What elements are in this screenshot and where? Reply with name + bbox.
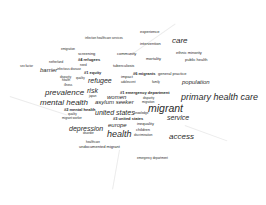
cloud-word: japan (89, 95, 96, 98)
cloud-word: public health (185, 58, 207, 62)
cloud-word: refugee (88, 77, 112, 84)
cloud-word: mental health (40, 99, 88, 107)
cloud-word: sex factor (20, 65, 33, 68)
cloud-word: care (172, 37, 188, 45)
cloud-word: europe (108, 122, 127, 128)
cloud-word: primary health care (181, 93, 258, 102)
cloud-word: risk (87, 87, 98, 94)
cloud-word: healthcare services (97, 37, 123, 40)
cloud-word: quality (76, 77, 85, 80)
faint-edge-line (112, 150, 120, 190)
cloud-word: service (167, 114, 189, 121)
cloud-word: children (136, 128, 150, 132)
cloud-word: emigration (61, 48, 75, 51)
cloud-word: general practice (158, 72, 186, 76)
cloud-word: asylum seeker (95, 99, 134, 105)
cloud-word: inequality (137, 122, 154, 126)
cloud-word: infectious disease (57, 68, 81, 71)
cloud-word: access (169, 133, 194, 141)
cloud-word: #1 emergency department (120, 91, 170, 95)
cloud-word: infection (85, 37, 96, 40)
cloud-word: prevalence (45, 89, 84, 97)
cloud-word: knowledge (134, 112, 148, 115)
cloud-word: health (62, 79, 70, 82)
cloud-word: experience (140, 30, 160, 34)
cloud-word: screening (78, 52, 95, 56)
cloud-word: emergency department (137, 157, 168, 160)
word-cloud: experienceinterventioncareinfectionhealt… (0, 0, 266, 205)
cloud-word: impact (121, 75, 133, 79)
cloud-word: undocumented migrant (79, 145, 120, 149)
cloud-word: #1 equity (84, 71, 101, 75)
cloud-word: mortality (146, 57, 161, 61)
cloud-word: family (152, 81, 160, 84)
cloud-word: adolescent (121, 81, 136, 84)
cloud-word: intervention (140, 42, 161, 46)
cloud-word: health (107, 130, 132, 139)
cloud-word: tuberculosis (113, 64, 134, 68)
cloud-word: migrant worker (62, 117, 82, 120)
cloud-word: #6 migrants (133, 72, 155, 76)
cloud-word: #4 refugees (78, 58, 100, 62)
cloud-word: population (182, 79, 210, 85)
cloud-word: disorder (83, 132, 94, 135)
cloud-word: barrier (40, 67, 57, 73)
cloud-word: need (80, 64, 87, 67)
cloud-word: discrimination (134, 134, 152, 137)
cloud-word: illness (64, 84, 72, 87)
cloud-word: netherland (49, 61, 63, 64)
cloud-word: community (117, 52, 136, 56)
cloud-word: united states (95, 109, 135, 116)
cloud-word: migrant (148, 103, 183, 114)
cloud-word: ethnic minority (176, 51, 202, 55)
